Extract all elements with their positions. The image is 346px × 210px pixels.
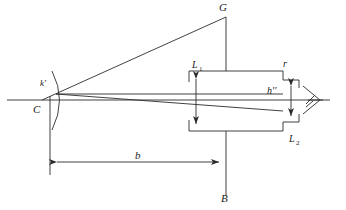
label-baseline-distance: b xyxy=(135,149,141,161)
label-aperture-bottom-subscript: 2 xyxy=(296,139,300,147)
optics-diagram-figure: G B C k' L 1 L 2 r h'' b xyxy=(0,0,346,210)
label-node-point: k' xyxy=(40,78,47,88)
label-vertex: C xyxy=(33,103,41,115)
optics-diagram-canvas: G B C k' L 1 L 2 r h'' b xyxy=(0,0,346,210)
label-object-bottom: B xyxy=(221,192,228,204)
curved-reflector-arc xyxy=(52,71,60,130)
label-aperture-bottom: L xyxy=(288,133,295,144)
converging-ray xyxy=(56,94,283,111)
block-bottom-stepped-edge xyxy=(196,122,299,131)
label-object-top: G xyxy=(219,1,227,13)
block-top-stepped-edge xyxy=(196,71,299,80)
label-image-height: h'' xyxy=(267,85,277,96)
oblique-ray-to-G xyxy=(42,17,226,100)
label-aperture-top-subscript: 1 xyxy=(199,65,203,73)
label-radius: r xyxy=(283,58,287,69)
label-aperture-top: L xyxy=(191,59,198,70)
